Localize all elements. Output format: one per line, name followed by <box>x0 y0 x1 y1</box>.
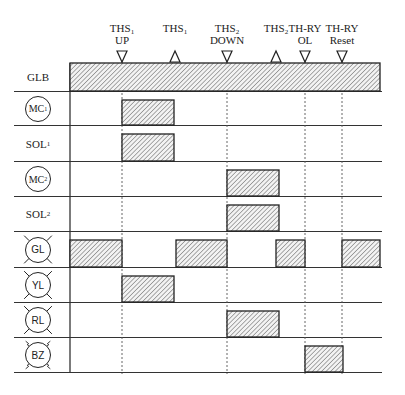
event-label-ths1-up: THS1UP <box>110 22 134 46</box>
row-label-mc1: MC1 <box>14 92 62 125</box>
grid-lines <box>14 61 382 374</box>
triangle-down-icon <box>300 51 310 62</box>
lamp-symbol-icon: GL <box>25 237 51 263</box>
gl-signal-bar <box>176 240 227 267</box>
event-label-ths2: THS2 <box>264 22 288 46</box>
row-label-sol1: SOL1 <box>14 126 62 161</box>
row-label-text: GL <box>31 244 44 255</box>
row-label-text: GLB <box>27 71 49 83</box>
event-label-line2: Reset <box>326 34 359 46</box>
triangle-down-icon <box>117 51 127 62</box>
signal-bars <box>70 63 380 372</box>
row-label-mc2: MC2 <box>14 162 62 196</box>
coil-symbol-icon: MC1 <box>25 96 51 122</box>
triangle-up-icon <box>271 51 281 62</box>
lamp-symbol-icon: YL <box>25 272 51 298</box>
event-label-ths1: THS1 <box>163 22 187 46</box>
row-label-text: YL <box>32 280 44 291</box>
mc2-signal-bar <box>227 170 279 196</box>
row-label-text: SOL <box>26 138 47 150</box>
timing-diagram: THS1UPTHS1 THS2DOWNTHS2 TH-RYOLTH-RYRese… <box>0 0 405 395</box>
event-label-th-ry-reset: TH-RYReset <box>326 22 359 46</box>
event-label-line1: TH-RY <box>289 22 322 34</box>
gl-signal-bar <box>70 240 122 267</box>
event-label-line1: TH-RY <box>326 22 359 34</box>
sol2-signal-bar <box>227 205 279 231</box>
buzzer-symbol-icon: BZ <box>25 342 51 368</box>
triangle-up-icon <box>170 51 180 62</box>
mc1-signal-bar <box>122 100 174 125</box>
event-label-line1: THS1 <box>110 22 134 34</box>
lamp-symbol-icon: RL <box>25 307 51 333</box>
gl-signal-bar <box>342 240 380 267</box>
row-label-text: MC <box>29 103 45 114</box>
row-label-gl: GL <box>14 232 62 267</box>
event-label-ths2-down: THS2DOWN <box>210 22 244 46</box>
row-label-text: RL <box>32 315 45 326</box>
rl-signal-bar <box>227 311 279 337</box>
triangle-down-icon <box>222 51 232 62</box>
coil-symbol-icon: MC2 <box>25 166 51 192</box>
row-label-text: MC <box>29 174 45 185</box>
row-label-yl: YL <box>14 268 62 302</box>
row-label-text: BZ <box>32 350 45 361</box>
row-label-glb: GLB <box>14 63 62 91</box>
bz-signal-bar <box>305 346 343 372</box>
row-label-sol2: SOL2 <box>14 197 62 231</box>
event-label-line2: OL <box>289 34 322 46</box>
yl-signal-bar <box>122 276 174 302</box>
sol1-signal-bar <box>122 134 174 161</box>
event-label-line1: THS2 <box>264 22 288 34</box>
event-label-th-ry-ol: TH-RYOL <box>289 22 322 46</box>
event-markers <box>117 51 347 62</box>
event-label-line1: THS2 <box>210 22 244 34</box>
glb-signal-bar <box>70 63 380 91</box>
event-label-line2: DOWN <box>210 34 244 46</box>
triangle-down-icon <box>337 51 347 62</box>
event-label-line1: THS1 <box>163 22 187 34</box>
row-label-bz: BZ <box>14 338 62 372</box>
row-label-rl: RL <box>14 303 62 337</box>
row-label-text: SOL <box>26 208 47 220</box>
gl-signal-bar <box>276 240 305 267</box>
